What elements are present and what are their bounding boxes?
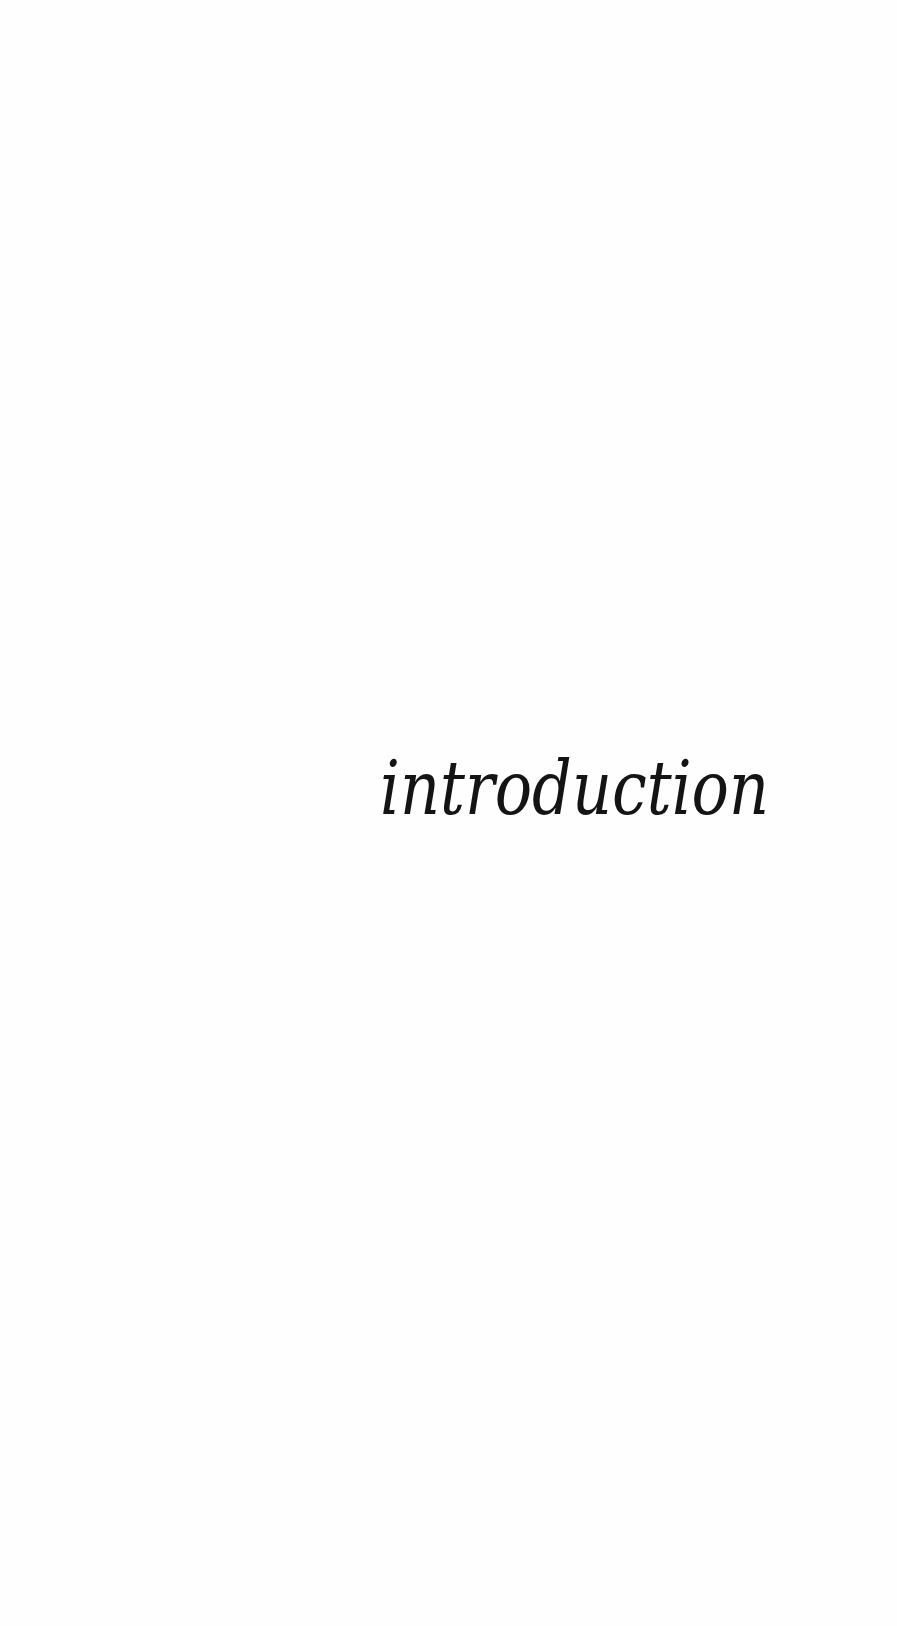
section-title: introduction — [380, 738, 769, 838]
book-page: introduction — [0, 0, 897, 1626]
